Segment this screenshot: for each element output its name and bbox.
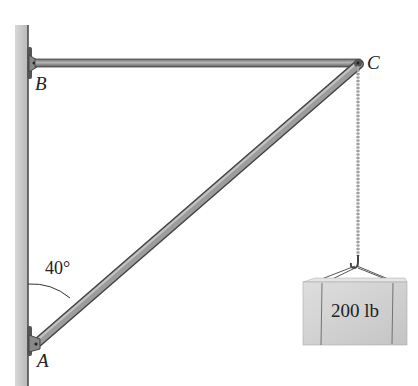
angle-label: 40° [45,258,70,279]
diagram-canvas [0,0,418,386]
member-bc [35,59,360,67]
load-label: 200 lb [331,300,379,322]
pin-joint-c [354,59,362,67]
angle-arc [28,284,70,298]
wall [15,25,28,386]
label-a: A [37,350,49,372]
label-b: B [35,73,47,95]
label-c: C [367,52,380,74]
